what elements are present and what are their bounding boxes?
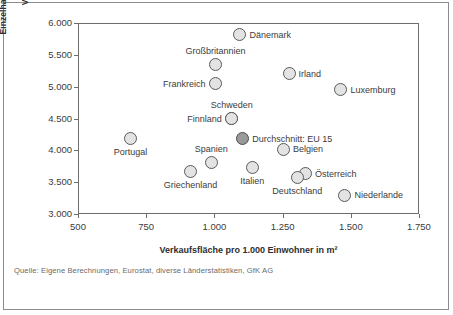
x-tick-mark	[283, 214, 284, 218]
data-point-label: Großbritannien	[185, 46, 245, 56]
source-note: Quelle: Eigene Berechnungen, Eurostat, d…	[14, 266, 273, 275]
data-point-label: Irland	[299, 69, 322, 79]
y-tick-label: 5.500	[28, 50, 72, 60]
data-point-label: Niederlande	[354, 190, 403, 200]
data-point-label: Griechenland	[164, 180, 218, 190]
data-point-label: Finnland	[187, 114, 222, 124]
data-point[interactable]	[334, 83, 347, 96]
data-point-label: Luxemburg	[350, 85, 395, 95]
data-point-label: Schweden	[211, 100, 253, 110]
x-tick-mark	[78, 214, 79, 218]
x-tick-mark	[214, 214, 215, 218]
y-tick-label: 3.000	[28, 209, 72, 219]
data-point[interactable]	[338, 189, 351, 202]
data-point[interactable]	[246, 161, 259, 174]
data-point-label: Portugal	[114, 147, 148, 157]
y-tick-label: 6.000	[28, 18, 72, 28]
data-point[interactable]	[209, 58, 222, 71]
data-point[interactable]	[124, 132, 137, 145]
y-tick-label: 4.500	[28, 114, 72, 124]
x-tick-label: 1.000	[194, 222, 234, 232]
x-tick-mark	[419, 214, 420, 218]
x-tick-mark	[351, 214, 352, 218]
data-point[interactable]	[291, 171, 304, 184]
y-tick-label: 3.500	[28, 177, 72, 187]
x-tick-label: 500	[58, 222, 98, 232]
data-point-label: Österreich	[315, 169, 357, 179]
data-point[interactable]	[233, 28, 246, 41]
data-point[interactable]	[277, 143, 290, 156]
x-tick-label: 1.750	[399, 222, 439, 232]
y-axis-title-line1: Einzelhandelsumsatz in Euro pro m²	[0, 0, 19, 34]
data-point[interactable]	[225, 112, 238, 125]
x-tick-mark	[146, 214, 147, 218]
y-tick-label: 4.000	[28, 145, 72, 155]
data-point[interactable]	[184, 165, 197, 178]
x-tick-label: 1.250	[263, 222, 303, 232]
x-tick-label: 1.500	[331, 222, 371, 232]
data-point[interactable]	[236, 132, 249, 145]
data-point-label: Italien	[240, 176, 264, 186]
data-point-label: Dänemark	[249, 30, 291, 40]
data-point[interactable]	[205, 156, 218, 169]
data-point-label: Spanien	[195, 144, 228, 154]
y-tick-label: 5.000	[28, 82, 72, 92]
y-axis-title: Einzelhandelsumsatz in Euro pro m² Verka…	[0, 0, 31, 40]
data-point-label: Durchschnitt: EU 15	[252, 134, 332, 144]
data-point[interactable]	[283, 67, 296, 80]
x-tick-label: 750	[126, 222, 166, 232]
x-axis-title: Verkaufsfläche pro 1.000 Einwohner in m²	[78, 245, 419, 255]
data-point[interactable]	[209, 77, 222, 90]
plot-area: DänemarkGroßbritannienFrankreichIrlandLu…	[78, 23, 419, 214]
data-point-label: Belgien	[293, 144, 323, 154]
data-point-label: Deutschland	[272, 186, 322, 196]
scatter-chart: Einzelhandelsumsatz in Euro pro m² Verka…	[0, 0, 453, 315]
data-point-label: Frankreich	[163, 79, 206, 89]
